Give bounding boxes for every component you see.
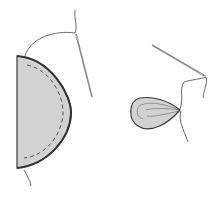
needle-eye-left	[76, 35, 79, 40]
thread-needle-tail	[203, 77, 207, 98]
half-circle-fabric	[17, 10, 92, 186]
thread-bottom	[24, 170, 31, 186]
thread-top	[25, 10, 76, 56]
thread-right-down	[180, 111, 188, 142]
gathered-fabric	[131, 45, 207, 142]
fabric-teardrop	[131, 98, 180, 129]
needle-right	[152, 45, 205, 76]
thread-right-up	[180, 77, 206, 109]
sewing-diagram	[0, 0, 221, 198]
needle-left	[76, 34, 92, 97]
diagram-svg	[0, 0, 221, 198]
